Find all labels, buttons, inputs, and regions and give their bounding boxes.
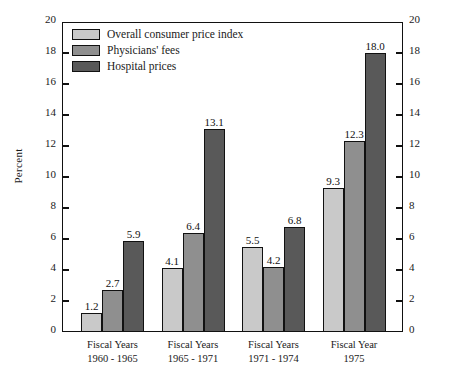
bar-value-label: 9.3 [326, 176, 340, 187]
legend-swatch [72, 45, 100, 56]
legend-swatch [72, 61, 100, 72]
y-axis-title: Percent [12, 126, 24, 206]
bar: 6.8 [284, 227, 305, 332]
y-tick-left-label: 6 [51, 231, 57, 242]
y-tick-left-label: 18 [45, 45, 56, 56]
bar-value-label: 4.2 [267, 255, 281, 266]
y-tick-right-label: 4 [409, 262, 415, 273]
y-tick-left-label: 12 [45, 138, 56, 149]
legend-item: Physicians' fees [72, 43, 287, 58]
x-axis-label: Fiscal Year1975 [309, 338, 400, 366]
bar: 9.3 [323, 188, 344, 332]
legend-item: Overall consumer price index [72, 27, 287, 42]
y-tick-right-label: 12 [409, 138, 420, 149]
bar-value-label: 18.0 [365, 41, 384, 52]
bar-value-label: 5.9 [127, 229, 141, 240]
bar: 5.5 [242, 247, 263, 332]
y-tick-right-label: 20 [409, 14, 420, 25]
bar: 13.1 [204, 129, 225, 332]
y-tick-left-label: 14 [45, 107, 56, 118]
x-axis-label-line1: Fiscal Years [168, 339, 219, 350]
x-axis-label: Fiscal Years1960 - 1965 [67, 338, 158, 366]
bar-value-label: 13.1 [204, 117, 223, 128]
bar-value-label: 6.8 [288, 215, 302, 226]
x-axis-label: Fiscal Years1971 - 1974 [228, 338, 319, 366]
legend-label: Physicians' fees [107, 45, 180, 57]
y-axis-left: 02468101214161820 [30, 22, 56, 332]
bar: 2.7 [102, 290, 123, 332]
y-tick-left-label: 2 [51, 293, 57, 304]
bar-value-label: 2.7 [106, 278, 120, 289]
bar: 18.0 [365, 53, 386, 332]
bar-group: 9.312.318.0 [323, 22, 386, 332]
x-axis-category-labels: Fiscal Years1960 - 1965Fiscal Years1965 … [62, 338, 403, 378]
x-axis-label-line1: Fiscal Year [331, 339, 378, 350]
bar-chart: Percent 02468101214161820 02468101214161… [0, 0, 454, 382]
y-tick-right-label: 18 [409, 45, 420, 56]
x-axis-label: Fiscal Years1965 - 1971 [148, 338, 239, 366]
y-tick-left-label: 20 [45, 14, 56, 25]
y-tick-right-label: 10 [409, 169, 420, 180]
y-tick-right-label: 6 [409, 231, 415, 242]
bar-value-label: 4.1 [165, 256, 179, 267]
bar-value-label: 6.4 [186, 221, 200, 232]
legend-label: Hospital prices [107, 61, 176, 73]
chart-legend: Overall consumer price indexPhysicians' … [72, 27, 287, 75]
y-axis-right: 02468101214161820 [409, 22, 435, 332]
legend-item: Hospital prices [72, 59, 287, 74]
bar: 5.9 [123, 241, 144, 332]
bar: 1.2 [81, 313, 102, 332]
y-tick-left-label: 8 [51, 200, 57, 211]
x-axis-label-line2: 1975 [309, 352, 400, 366]
x-axis-label-line1: Fiscal Years [87, 339, 138, 350]
x-axis-label-line1: Fiscal Years [248, 339, 299, 350]
y-tick-right-label: 0 [409, 324, 415, 335]
legend-label: Overall consumer price index [107, 29, 243, 41]
y-tick-left-label: 4 [51, 262, 57, 273]
bar-value-label: 12.3 [344, 129, 363, 140]
y-tick-left-label: 16 [45, 76, 56, 87]
x-axis-label-line2: 1971 - 1974 [228, 352, 319, 366]
bar: 4.1 [162, 268, 183, 332]
y-tick-right-label: 2 [409, 293, 415, 304]
y-tick-left-label: 0 [51, 324, 57, 335]
x-axis-label-line2: 1960 - 1965 [67, 352, 158, 366]
bar: 6.4 [183, 233, 204, 332]
bar-value-label: 1.2 [85, 301, 99, 312]
legend-swatch [72, 29, 100, 40]
bar: 4.2 [263, 267, 284, 332]
bar-value-label: 5.5 [246, 235, 260, 246]
y-tick-left-label: 10 [45, 169, 56, 180]
bar: 12.3 [344, 141, 365, 332]
y-tick-right-label: 8 [409, 200, 415, 211]
y-tick-right-label: 14 [409, 107, 420, 118]
y-tick-right-label: 16 [409, 76, 420, 87]
x-axis-label-line2: 1965 - 1971 [148, 352, 239, 366]
